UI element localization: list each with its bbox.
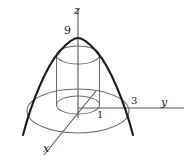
- tick-label-three: 3: [131, 96, 137, 106]
- x-axis: [44, 91, 96, 155]
- diagram-canvas: [0, 0, 184, 167]
- tick-label-one: 1: [97, 110, 103, 120]
- tick-label-nine: 9: [64, 25, 71, 36]
- axis-label-y: y: [161, 97, 167, 108]
- axis-label-x: x: [43, 143, 49, 154]
- figure-3d-paraboloid-cylinder: z 9 3 y 1 x: [0, 0, 184, 167]
- axis-label-z: z: [74, 5, 80, 16]
